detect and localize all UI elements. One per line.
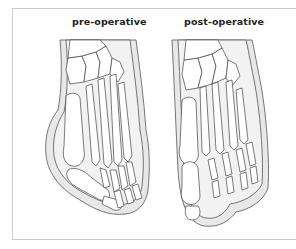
foot-diagram — [0, 0, 296, 249]
pre-operative-foot-illustration — [46, 40, 150, 214]
post-operative-foot-illustration — [172, 40, 269, 226]
